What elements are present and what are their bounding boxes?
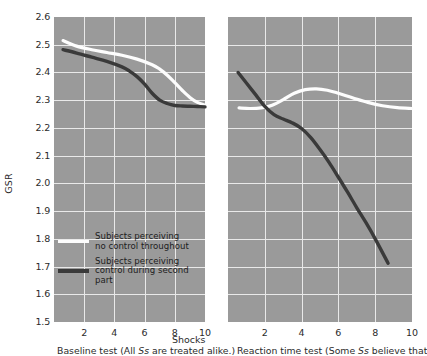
y-tick-label: 2.3 — [22, 94, 50, 105]
y-tick-label: 1.6 — [22, 288, 50, 299]
x-tick-label: 8 — [363, 327, 387, 338]
y-tick-label: 1.7 — [22, 261, 50, 272]
plot-area-reaction-time-test — [228, 17, 412, 322]
x-tick-label: 10 — [400, 327, 424, 338]
chart-legend: Subjects perceiving no control throughou… — [58, 232, 204, 291]
y-tick-label: 2.5 — [22, 39, 50, 50]
x-axis-label: Shocks — [172, 334, 206, 345]
x-tick-label: 2 — [72, 327, 96, 338]
y-tick-label: 2.6 — [22, 11, 50, 22]
y-tick-label: 2.1 — [22, 150, 50, 161]
y-tick-label: 1.5 — [22, 316, 50, 327]
y-tick-label: 2.2 — [22, 122, 50, 133]
x-tick-label: 2 — [253, 327, 277, 338]
legend-label-control-second-part: Subjects perceiving control during secon… — [95, 257, 204, 286]
x-tick-label: 4 — [102, 327, 126, 338]
legend-item-no-control: Subjects perceiving no control throughou… — [58, 232, 204, 252]
legend-swatch-white-line — [58, 240, 89, 243]
legend-swatch-dark-line — [58, 269, 89, 273]
y-tick-label: 2.0 — [22, 177, 50, 188]
y-tick-label: 1.8 — [22, 233, 50, 244]
curves-right — [228, 17, 412, 322]
x-tick-label: 6 — [326, 327, 350, 338]
y-tick-label: 1.9 — [22, 205, 50, 216]
legend-item-control-second-part: Subjects perceiving control during secon… — [58, 257, 204, 286]
x-tick-label: 6 — [133, 327, 157, 338]
y-axis-label: GSR — [3, 162, 14, 206]
caption-reaction-time-test: Reaction time test (Some Ss believe that — [237, 345, 427, 356]
legend-label-no-control: Subjects perceiving no control throughou… — [95, 232, 189, 252]
x-tick-label: 4 — [290, 327, 314, 338]
caption-baseline-test: Baseline test (All Ss are treated alike.… — [57, 345, 235, 356]
y-tick-label: 2.4 — [22, 66, 50, 77]
